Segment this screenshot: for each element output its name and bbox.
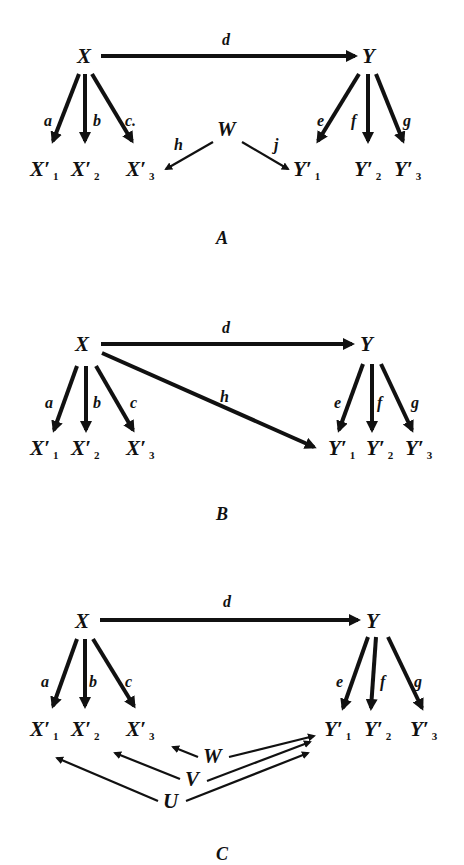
edge-label-c: c [130, 394, 137, 411]
edge-v-y1-arrow [207, 742, 310, 781]
node-w: W [203, 744, 223, 768]
edge-label-f: f [380, 673, 387, 691]
node-y2: Υ′2 [366, 436, 394, 461]
node-w: W [217, 117, 237, 141]
edge-c-arrow [96, 366, 133, 430]
edge-label-j: j [271, 136, 279, 154]
edge-label-e: e [336, 673, 343, 690]
edge-label-c: c. [125, 112, 136, 129]
node-y3: Υ′3 [405, 436, 433, 461]
node-y1: Υ′1 [324, 717, 351, 742]
edge-g-arrow [381, 364, 412, 430]
panel-caption-a: A [215, 228, 228, 248]
node-x2: X′2 [70, 157, 100, 182]
node-y: Υ [360, 332, 375, 356]
panel-c: d X Υ a b c e f g X′1 X′2 X′3 Υ′1 Υ′2 Υ′… [29, 593, 438, 864]
edge-j-arrow [242, 142, 288, 169]
node-y2: Υ′2 [354, 157, 382, 182]
panel-caption-c: C [216, 844, 229, 864]
edge-a-arrow [53, 74, 79, 141]
node-x1: X′1 [29, 157, 58, 182]
edge-f-arrow [371, 637, 376, 708]
node-x3: X′3 [125, 436, 155, 461]
node-x3: X′3 [125, 157, 155, 182]
node-x2: X′2 [70, 436, 100, 461]
edge-label-h: h [174, 136, 183, 153]
panel-caption-b: B [215, 504, 228, 524]
edge-label-h: h [220, 388, 229, 405]
edge-label-a: a [44, 112, 52, 129]
edge-label-b: b [93, 394, 101, 411]
edge-a-arrow [54, 366, 77, 430]
edge-w-x3-arrow [173, 747, 198, 757]
node-x2: X′2 [70, 717, 100, 742]
panel-a: d X Υ a b c. e f g W h j X′1 X′2 X′3 Υ′1… [29, 31, 422, 248]
node-y1: Υ′1 [293, 157, 320, 182]
edge-label-d: d [222, 319, 231, 336]
edge-label-f: f [351, 112, 358, 130]
edge-label-g: g [402, 112, 411, 130]
node-y2: Υ′2 [364, 717, 392, 742]
edge-label-c: c [125, 673, 132, 690]
edge-label-a: a [45, 394, 53, 411]
edge-e-arrow [339, 364, 363, 430]
node-x: X [74, 609, 90, 633]
edge-label-d: d [222, 31, 231, 48]
edge-e-arrow [343, 637, 368, 708]
edge-a-arrow [53, 639, 77, 706]
node-x3: X′3 [125, 717, 155, 742]
causal-diagram: d X Υ a b c. e f g W h j X′1 X′2 X′3 Υ′1… [0, 0, 464, 865]
node-x1: X′1 [29, 436, 58, 461]
node-x: X [74, 332, 90, 356]
edge-label-e: e [334, 394, 341, 411]
edge-e-arrow [318, 74, 359, 141]
node-x: X [76, 44, 92, 68]
edge-label-e: e [317, 112, 324, 129]
edge-label-g: g [410, 394, 419, 412]
edge-label-b: b [89, 673, 97, 690]
edge-v-x2-arrow [115, 753, 180, 779]
edge-label-d: d [223, 593, 232, 610]
edge-g-arrow [376, 74, 403, 141]
node-y1: Υ′1 [328, 436, 355, 461]
panel-b: d X Υ h a b c e f g X′1 X′2 X′3 Υ′1 Υ′2 … [29, 319, 433, 524]
node-v: V [185, 767, 201, 791]
node-y: Υ [362, 44, 377, 68]
edge-label-g: g [413, 673, 422, 691]
node-u: U [163, 789, 180, 813]
node-x1: X′1 [29, 717, 58, 742]
edge-label-f: f [377, 394, 384, 412]
node-y: Υ [366, 609, 381, 633]
edge-label-b: b [93, 112, 101, 129]
edge-label-a: a [41, 673, 49, 690]
node-y3: Υ′3 [410, 717, 438, 742]
edge-c-arrow [92, 74, 132, 141]
node-y3: Υ′3 [394, 157, 422, 182]
edge-w-y1-arrow [229, 736, 314, 757]
